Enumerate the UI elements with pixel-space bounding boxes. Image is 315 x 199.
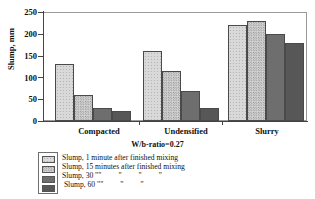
legend-label-3: Slump, 60 "" " "	[62, 181, 144, 189]
x-category-slurry: Slurry	[227, 126, 307, 136]
bar-undensified-s3	[200, 108, 219, 121]
bar-group-slurry	[228, 12, 302, 121]
x-axis-line	[43, 121, 308, 122]
legend-swatch-2	[42, 176, 55, 183]
bar-compacted-s1	[74, 95, 93, 121]
x-category-undensified: Undensified	[142, 126, 230, 136]
bar-compacted-s0	[55, 64, 74, 121]
bar-slurry-s0	[228, 25, 247, 121]
legend-label-0: Slump, 1 minute after finished mixing	[62, 154, 178, 162]
legend-swatch-3	[42, 185, 55, 192]
bar-slurry-s3	[285, 43, 304, 122]
bar-compacted-s2	[93, 108, 112, 121]
x-category-compacted: Compacted	[55, 126, 143, 136]
y-label-250: 250	[1, 8, 37, 16]
bar-compacted-s3	[112, 111, 131, 121]
legend-label-2-ditto: " " " "	[98, 172, 162, 180]
legend-label-1-text: Slump, 15 minutes after finished mixing	[62, 162, 185, 171]
bar-undensified-s1	[162, 71, 181, 121]
legend-label-1: Slump, 15 minutes after finished mixing	[62, 163, 185, 171]
bar-slurry-s1	[247, 21, 266, 121]
legend-label-3-ditto: " " "	[100, 181, 143, 189]
legend-label-2: Slump, 30 "" " " "	[62, 172, 162, 180]
y-label-200: 200	[1, 30, 37, 38]
y-label-50: 50	[1, 95, 37, 103]
bar-group-compacted	[55, 12, 129, 121]
x-axis-separator-2	[222, 121, 223, 125]
chart-root: Slump, mm 250 200 150 100 50 0	[0, 0, 315, 199]
bar-undensified-s2	[181, 91, 200, 122]
legend-box	[38, 152, 58, 194]
legend-label-0-text: Slump, 1 minute after finished mixing	[62, 153, 178, 162]
legend-label-3-text: Slump, 60 "	[62, 180, 100, 189]
bars-layer	[43, 12, 307, 121]
y-label-100: 100	[1, 74, 37, 82]
y-label-150: 150	[1, 52, 37, 60]
wb-ratio-label: W/b-ratio=0.27	[0, 140, 315, 149]
legend-label-2-text: Slump, 30 "	[62, 171, 98, 180]
legend-swatch-1	[42, 166, 55, 173]
bar-undensified-s0	[143, 51, 162, 121]
bar-slurry-s2	[266, 34, 285, 121]
x-axis-separator-1	[139, 121, 140, 125]
legend-swatch-0	[42, 156, 55, 163]
bar-group-undensified	[143, 12, 217, 121]
y-label-0: 0	[1, 117, 37, 125]
